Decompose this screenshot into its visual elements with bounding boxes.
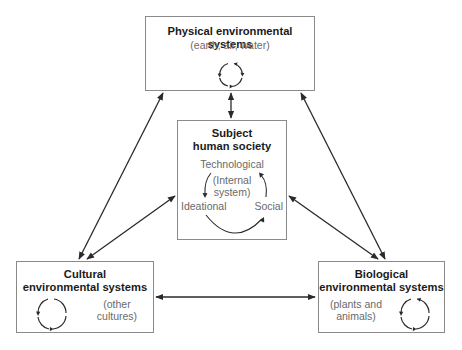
biological-title-line2: environmental systems [319,281,444,294]
cultural-title-line1: Cultural [17,268,153,281]
cycle-icon [398,296,432,332]
internal-cycle-arrows [178,121,288,241]
arrow-subject-cultural [87,196,175,259]
subject-society-box: Subject human society Technological (Int… [177,120,287,240]
cultural-subtitle-line1: (other [85,298,149,311]
biological-systems-box: Biological environmental systems (plants… [318,261,445,333]
cycle-icon [217,61,245,89]
arrow-subject-biological [289,196,378,259]
biological-title-line1: Biological [319,268,444,281]
physical-systems-box: Physical environmental systems (earth, a… [145,16,315,91]
cultural-subtitle-line2: cultures) [85,310,149,323]
cultural-systems-box: Cultural environmental systems (other cu… [16,261,154,333]
cycle-icon [35,296,69,332]
biological-subtitle-line1: (plants and [325,298,387,311]
biological-subtitle-line2: animals) [325,310,387,323]
cultural-title-line2: environmental systems [17,281,153,294]
physical-systems-subtitle: (earth, air, water) [146,39,314,52]
